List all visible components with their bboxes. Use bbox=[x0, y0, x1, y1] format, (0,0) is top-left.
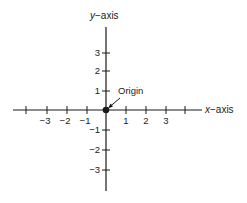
y-axis-title: y−axis bbox=[90, 11, 119, 21]
origin-arrow bbox=[108, 98, 120, 109]
x-tick-label: 3 bbox=[163, 116, 168, 126]
y-tick-label: 2 bbox=[95, 66, 100, 76]
x-tick-label: −3 bbox=[40, 116, 51, 126]
x-axis-title: x−axis bbox=[205, 105, 234, 115]
x-axis-title-rest: −axis bbox=[210, 104, 234, 115]
origin-label: Origin bbox=[118, 86, 143, 96]
x-tick-label: −2 bbox=[60, 116, 71, 126]
y-tick-label: −3 bbox=[89, 165, 100, 175]
y-axis-title-rest: −axis bbox=[95, 10, 119, 21]
coordinate-axes-diagram bbox=[0, 0, 247, 203]
y-tick-label: −1 bbox=[89, 125, 100, 135]
y-tick-label: 3 bbox=[95, 48, 100, 58]
y-tick-label: 1 bbox=[95, 86, 100, 96]
x-tick-label: 1 bbox=[123, 116, 128, 126]
x-tick-label: 2 bbox=[143, 116, 148, 126]
y-tick-label: −2 bbox=[89, 145, 100, 155]
origin-dot bbox=[103, 107, 110, 114]
